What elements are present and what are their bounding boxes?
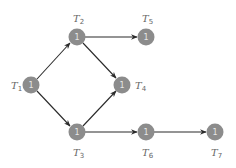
edge-t1-t3 bbox=[37, 91, 70, 126]
node-label: T4 bbox=[135, 80, 147, 93]
node-t3[interactable]: 1 T3 bbox=[69, 124, 86, 161]
node-t7[interactable]: 1 T7 bbox=[207, 124, 224, 161]
node-label: T1 bbox=[11, 80, 22, 93]
node-value: 1 bbox=[119, 81, 124, 90]
edge-t2-t4 bbox=[83, 43, 116, 78]
node-label: T5 bbox=[142, 13, 153, 26]
edge-t3-t4 bbox=[83, 91, 116, 126]
node-t4[interactable]: 1 T4 bbox=[114, 77, 147, 94]
node-label: T3 bbox=[73, 147, 84, 160]
edge-t1-t2 bbox=[37, 43, 70, 79]
node-value: 1 bbox=[143, 128, 148, 137]
node-t5[interactable]: 1 T5 bbox=[138, 13, 155, 46]
node-t2[interactable]: 1 T2 bbox=[69, 13, 86, 46]
node-t1[interactable]: 1 T1 bbox=[11, 77, 40, 94]
node-label: T6 bbox=[142, 147, 154, 160]
node-label: T2 bbox=[73, 13, 84, 26]
node-value: 1 bbox=[74, 33, 79, 42]
task-graph: 1 T1 1 T2 1 T3 1 T4 1 T5 1 T6 1 T7 bbox=[0, 0, 236, 168]
node-value: 1 bbox=[74, 128, 79, 137]
node-value: 1 bbox=[28, 81, 33, 90]
node-value: 1 bbox=[143, 33, 148, 42]
node-t6[interactable]: 1 T6 bbox=[138, 124, 155, 161]
node-label: T7 bbox=[211, 147, 222, 160]
node-value: 1 bbox=[212, 128, 217, 137]
